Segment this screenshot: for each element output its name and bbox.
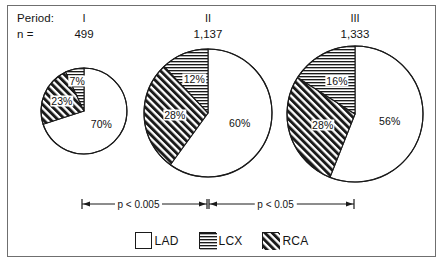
figure-root: Period: n = I 499 II 1,137 III 1,333 70%… (0, 0, 443, 268)
column-n-2: 1,137 (194, 28, 223, 40)
period-row-label: Period: (17, 12, 54, 24)
legend-swatch-lad (135, 232, 152, 249)
legend-item-lad: LAD (135, 232, 179, 249)
pie-label-period-i-rca: 23% (50, 96, 73, 107)
pie-label-period-iii-lcx: 16% (325, 76, 348, 87)
column-n-3: 1,333 (341, 28, 370, 40)
pie-label-period-ii-lad: 60% (229, 117, 250, 129)
legend-label-lcx: LCX (219, 234, 243, 248)
column-head-2: II (205, 12, 211, 24)
significance-label-1: p < 0.005 (115, 199, 163, 210)
legend-item-lcx: LCX (199, 232, 243, 249)
legend-swatch-lcx (199, 232, 216, 249)
n-row-label: n = (17, 28, 34, 40)
column-head-1: I (82, 12, 85, 24)
pie-label-period-iii-rca: 28% (311, 119, 334, 130)
pie-label-period-i-lcx: 7% (68, 75, 85, 86)
column-head-3: III (350, 12, 359, 24)
legend-item-rca: RCA (262, 232, 308, 249)
column-n-1: 499 (74, 28, 93, 40)
legend-label-lad: LAD (155, 234, 179, 248)
pie-label-period-ii-lcx: 12% (183, 73, 206, 84)
legend-swatch-rca (262, 232, 279, 249)
legend-label-rca: RCA (282, 234, 308, 248)
pie-chart-period-iii (284, 43, 426, 185)
pie-label-period-iii-lad: 56% (379, 115, 400, 127)
legend: LADLCXRCA (0, 232, 443, 249)
significance-label-2: p < 0.05 (254, 199, 296, 210)
pie-chart-period-ii (141, 46, 275, 180)
pie-label-period-i-lad: 70% (91, 118, 112, 130)
pie-label-period-ii-rca: 28% (163, 110, 186, 121)
